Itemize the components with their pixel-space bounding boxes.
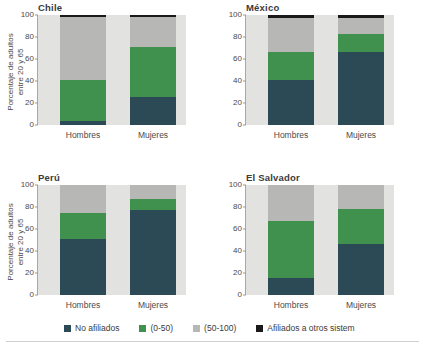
- bar-segment[interactable]: [268, 221, 314, 278]
- x-tick-label-hombres: Hombres: [256, 130, 326, 140]
- bar-mujeres[interactable]: [338, 15, 384, 125]
- bar-segment[interactable]: [338, 34, 384, 52]
- legend-divider: [6, 341, 419, 342]
- panel-title: Chile: [38, 2, 62, 13]
- legend: No afiliados(0-50)(50-100)Afiliados a ot…: [0, 320, 423, 336]
- y-tick-label: 0: [30, 291, 34, 299]
- bar-segment[interactable]: [338, 209, 384, 244]
- bar-segment[interactable]: [130, 185, 176, 199]
- x-tick-label-mujeres: Mujeres: [118, 130, 188, 140]
- y-tick-label: 100: [21, 11, 34, 19]
- bar-segment[interactable]: [268, 185, 314, 221]
- y-tick-mark: [243, 185, 246, 186]
- legend-label: (0-50): [150, 323, 173, 333]
- figure-root: Porcentaje de adultos entre 20 y 65 Porc…: [0, 0, 423, 348]
- bar-segment[interactable]: [130, 97, 176, 125]
- bar-hombres[interactable]: [60, 185, 106, 295]
- y-tick-mark: [35, 103, 38, 104]
- bar-segment[interactable]: [130, 17, 176, 48]
- legend-swatch-icon: [256, 325, 263, 332]
- y-tick-label: 20: [233, 99, 242, 107]
- plot-inner: 020406080100: [246, 185, 394, 295]
- plot-area: 020406080100 Hombres Mujeres: [38, 15, 186, 125]
- bar-mujeres[interactable]: [130, 15, 176, 125]
- bar-segment[interactable]: [130, 210, 176, 295]
- panel-title: México: [246, 2, 279, 13]
- x-tick-label-hombres: Hombres: [256, 300, 326, 310]
- plot-inner: 020406080100: [246, 15, 394, 125]
- y-tick-mark: [243, 37, 246, 38]
- y-tick-label: 100: [21, 181, 34, 189]
- bar-segment[interactable]: [268, 52, 314, 81]
- legend-item-cotiza-50-100[interactable]: (50-100): [193, 323, 236, 333]
- bar-segment[interactable]: [338, 244, 384, 295]
- y-tick-mark: [35, 273, 38, 274]
- bar-segment[interactable]: [60, 213, 106, 239]
- bar-segment[interactable]: [130, 47, 176, 97]
- bar-segment[interactable]: [338, 18, 384, 33]
- y-tick-mark: [35, 37, 38, 38]
- y-tick-mark: [243, 273, 246, 274]
- y-tick-mark: [35, 229, 38, 230]
- y-tick-label: 80: [233, 33, 242, 41]
- y-tick-mark: [243, 251, 246, 252]
- y-tick-label: 20: [233, 269, 242, 277]
- y-tick-mark: [243, 125, 246, 126]
- y-axis-title-top: Porcentaje de adultos entre 20 y 65: [6, 20, 26, 124]
- y-tick-label: 60: [233, 55, 242, 63]
- legend-item-cotiza-0-50[interactable]: (0-50): [139, 323, 173, 333]
- legend-item-no-afiliados[interactable]: No afiliados: [64, 323, 119, 333]
- bar-segment[interactable]: [338, 185, 384, 209]
- bar-hombres[interactable]: [60, 15, 106, 125]
- bar-segment[interactable]: [60, 185, 106, 213]
- x-tick-label-mujeres: Mujeres: [326, 130, 396, 140]
- y-tick-mark: [243, 207, 246, 208]
- bar-segment[interactable]: [268, 278, 314, 295]
- plot-inner: 020406080100: [38, 185, 186, 295]
- plot-area: 020406080100 Hombres Mujeres: [246, 185, 394, 295]
- y-tick-label: 40: [233, 77, 242, 85]
- y-tick-label: 40: [233, 247, 242, 255]
- plot-area: 020406080100 Hombres Mujeres: [38, 185, 186, 295]
- y-tick-mark: [243, 15, 246, 16]
- bar-segment[interactable]: [338, 52, 384, 125]
- y-tick-mark: [35, 251, 38, 252]
- x-tick-label-hombres: Hombres: [48, 300, 118, 310]
- legend-label: No afiliados: [75, 323, 119, 333]
- y-tick-label: 0: [238, 291, 242, 299]
- x-tick-label-mujeres: Mujeres: [118, 300, 188, 310]
- panel-title: El Salvador: [246, 172, 300, 183]
- bar-segment[interactable]: [268, 18, 314, 52]
- bar-mujeres[interactable]: [338, 185, 384, 295]
- y-axis-title-line1: Porcentaje de adultos: [6, 190, 16, 294]
- y-tick-mark: [35, 15, 38, 16]
- x-tick-label-mujeres: Mujeres: [326, 300, 396, 310]
- y-tick-mark: [243, 59, 246, 60]
- bar-hombres[interactable]: [268, 185, 314, 295]
- y-tick-mark: [35, 81, 38, 82]
- bar-mujeres[interactable]: [130, 185, 176, 295]
- bar-hombres[interactable]: [268, 15, 314, 125]
- bar-segment[interactable]: [268, 80, 314, 125]
- bar-segment[interactable]: [60, 121, 106, 125]
- legend-swatch-icon: [64, 325, 71, 332]
- y-tick-label: 60: [233, 225, 242, 233]
- y-axis-title-bottom: Porcentaje de adultos entre 20 y 65: [6, 190, 26, 294]
- y-tick-mark: [35, 185, 38, 186]
- y-tick-label: 100: [229, 11, 242, 19]
- y-tick-label: 80: [25, 203, 34, 211]
- x-tick-label-hombres: Hombres: [48, 130, 118, 140]
- bar-segment[interactable]: [60, 17, 106, 81]
- legend-swatch-icon: [193, 325, 200, 332]
- plot-area: 020406080100 Hombres Mujeres: [246, 15, 394, 125]
- y-tick-mark: [35, 207, 38, 208]
- legend-label: (50-100): [204, 323, 236, 333]
- y-tick-label: 40: [25, 77, 34, 85]
- legend-item-otros-sistemas[interactable]: Afiliados a otros sistem: [256, 323, 354, 333]
- bar-segment[interactable]: [60, 239, 106, 295]
- bar-segment[interactable]: [60, 80, 106, 121]
- panel-title: Perú: [38, 172, 60, 183]
- y-tick-label: 0: [30, 121, 34, 129]
- y-tick-label: 20: [25, 269, 34, 277]
- bar-segment[interactable]: [130, 199, 176, 211]
